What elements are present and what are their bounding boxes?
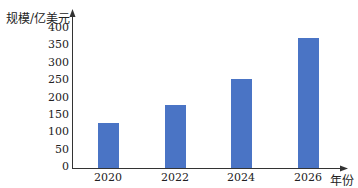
y-tick-label: 0 — [39, 161, 69, 173]
x-axis-arrow-icon — [340, 165, 348, 172]
y-tick-label: 300 — [39, 57, 69, 69]
x-tick-label: 2022 — [155, 172, 195, 184]
y-tick-label: 200 — [39, 92, 69, 104]
y-axis-arrow-icon — [69, 9, 76, 17]
bar-2020 — [98, 123, 119, 168]
bar-2026 — [298, 38, 319, 168]
bar-chart: 规模/亿美元 年份 050100150200250300350400 20202… — [0, 0, 358, 188]
y-tick-label: 100 — [39, 126, 69, 138]
x-axis-title: 年份 — [330, 171, 354, 188]
y-tick-label: 400 — [39, 22, 69, 34]
y-tick-label: 50 — [39, 144, 69, 156]
y-tick-label: 250 — [39, 74, 69, 86]
x-axis-line — [72, 168, 342, 169]
bar-2024 — [231, 79, 252, 168]
bar-2022 — [165, 105, 186, 168]
y-tick-label: 350 — [39, 39, 69, 51]
y-tick-label: 150 — [39, 109, 69, 121]
x-tick-label: 2026 — [288, 172, 328, 184]
x-tick-label: 2020 — [88, 172, 128, 184]
y-axis-line — [72, 13, 73, 169]
x-tick-label: 2024 — [221, 172, 261, 184]
